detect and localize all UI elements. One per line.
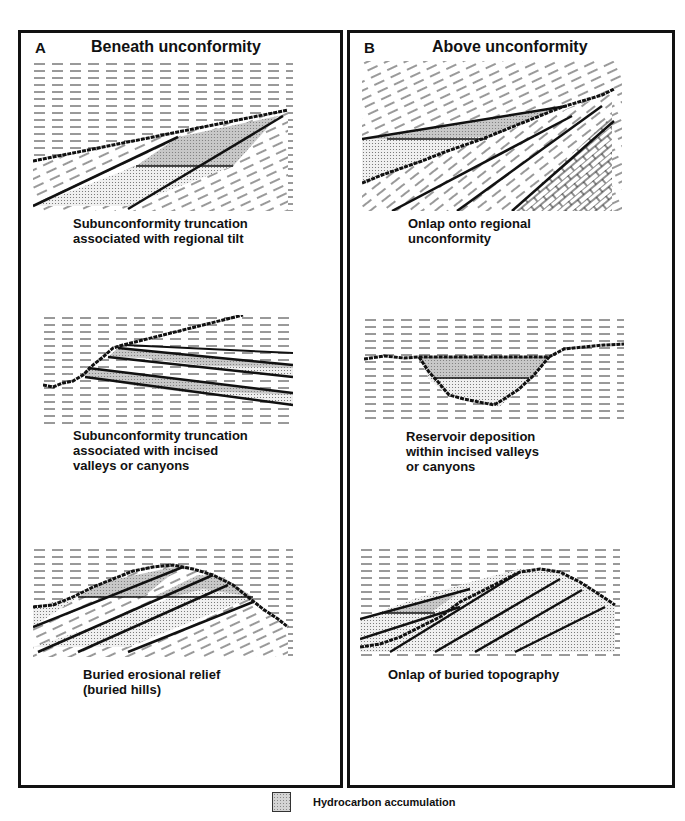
figure-caption: Buried erosional relief (buried hills) bbox=[83, 667, 220, 697]
onlap-buried-topography-diagram bbox=[360, 547, 620, 657]
legend: Hydrocarbon accumulation bbox=[272, 792, 455, 812]
onlap-regional-unconformity-diagram bbox=[362, 61, 622, 211]
regional-tilt-diagram bbox=[33, 61, 293, 211]
figure-caption: Reservoir deposition within incised vall… bbox=[406, 429, 539, 474]
legend-label: Hydrocarbon accumulation bbox=[313, 796, 455, 808]
incised-valley-reservoir-diagram bbox=[364, 317, 624, 422]
buried-hills-diagram bbox=[33, 547, 293, 657]
panel-letter: A bbox=[35, 39, 46, 56]
figure-caption: Onlap onto regional unconformity bbox=[408, 216, 531, 246]
panel-letter: B bbox=[364, 39, 375, 56]
figure-caption: Subunconformity truncation associated wi… bbox=[73, 216, 248, 246]
panel-title: Above unconformity bbox=[432, 38, 588, 56]
hydrocarbon-swatch-icon bbox=[272, 792, 291, 812]
figure-caption: Subunconformity truncation associated wi… bbox=[73, 428, 248, 473]
panel-title: Beneath unconformity bbox=[91, 38, 261, 56]
figure-caption: Onlap of buried topography bbox=[388, 667, 559, 682]
panel-above-unconformity: B Above unconformity Onlap onto regional… bbox=[347, 30, 675, 788]
incised-valley-truncation-diagram bbox=[43, 315, 293, 425]
panel-beneath-unconformity: A Beneath unconformity Subunconformity t… bbox=[18, 30, 343, 788]
